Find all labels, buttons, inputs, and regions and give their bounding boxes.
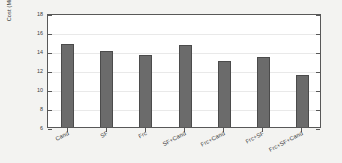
plot-area: [47, 14, 321, 128]
bar: [218, 61, 231, 127]
bar: [100, 51, 113, 127]
y-tick-label: 10: [15, 87, 43, 93]
x-axis-tick-labels: CandSFFrcSF+CandFrc+CandFrc+SFFrc+SF+Can…: [47, 128, 321, 163]
y-tick-mark: [316, 34, 320, 35]
bar: [296, 75, 309, 127]
bar: [179, 45, 192, 127]
y-tick-label: 16: [15, 30, 43, 36]
y-tick-mark: [316, 15, 320, 16]
y-axis-tick-labels: 181614121086: [0, 14, 47, 128]
y-tick-label: 12: [15, 68, 43, 74]
bar: [257, 57, 270, 127]
y-tick-label: 14: [15, 49, 43, 55]
y-tick-mark: [48, 72, 52, 73]
y-tick-label: 18: [15, 11, 43, 17]
y-tick-mark: [48, 53, 52, 54]
y-tick-mark: [48, 15, 52, 16]
y-tick-label: 6: [15, 125, 43, 131]
bar-chart-figure: Cost (Millions ($)) 181614121086 CandSFF…: [0, 0, 342, 163]
y-tick-mark: [316, 53, 320, 54]
y-tick-mark: [48, 110, 52, 111]
bar: [61, 44, 74, 127]
y-tick-label: 8: [15, 106, 43, 112]
bar: [139, 55, 152, 127]
y-tick-mark: [316, 110, 320, 111]
y-tick-mark: [48, 34, 52, 35]
gridline: [48, 34, 320, 35]
y-tick-mark: [316, 72, 320, 73]
y-tick-mark: [48, 91, 52, 92]
y-tick-mark: [316, 91, 320, 92]
